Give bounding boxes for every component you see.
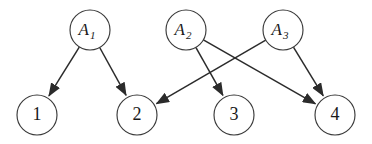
edge-A1-to-N2: [100, 48, 126, 96]
graph-canvas: A1A2A31234: [0, 0, 372, 144]
edge-A2-to-N4: [203, 40, 315, 104]
node-label-subscript: 2: [186, 29, 192, 41]
node-label-subscript: 1: [90, 29, 96, 41]
node-a3[interactable]: A3: [263, 10, 303, 50]
node-label: 1: [33, 104, 42, 124]
node-a1[interactable]: A1: [70, 10, 110, 50]
graph-diagram: A1A2A31234: [0, 0, 372, 144]
node-n3[interactable]: 3: [214, 95, 254, 135]
node-a2[interactable]: A2: [166, 10, 206, 50]
edge-A1-to-N1: [49, 47, 80, 96]
node-label: 3: [230, 104, 239, 124]
node-n1[interactable]: 1: [17, 95, 57, 135]
edge-A2-to-N3: [196, 47, 223, 95]
edge-A3-to-N4: [293, 47, 323, 96]
node-n2[interactable]: 2: [117, 95, 157, 135]
node-layer: A1A2A31234: [17, 10, 355, 135]
node-label: 2: [133, 104, 142, 124]
node-n4[interactable]: 4: [315, 95, 355, 135]
edge-A3-to-N2: [156, 40, 265, 104]
node-label-subscript: 3: [282, 29, 289, 41]
node-label: 4: [331, 104, 340, 124]
